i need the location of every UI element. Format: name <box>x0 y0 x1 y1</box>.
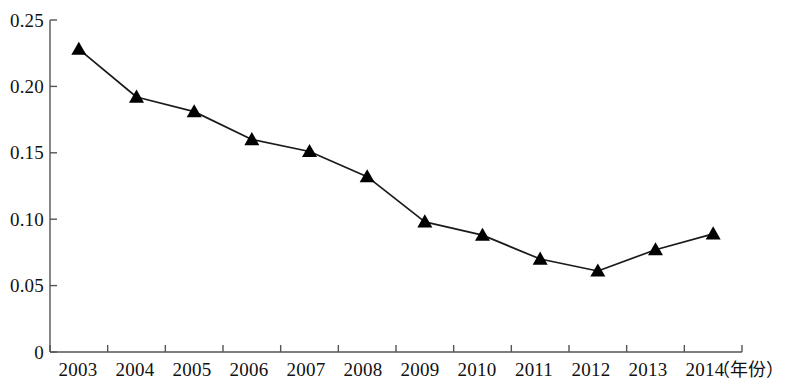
series-line <box>79 49 713 271</box>
line-chart: 0.25 0.20 0.15 0.10 0.05 0 2003 2004 200… <box>0 0 792 387</box>
series-markers <box>71 42 720 277</box>
plot-area <box>0 0 792 387</box>
y-axis-ticks <box>50 20 57 352</box>
data-point-marker <box>244 132 259 145</box>
x-axis-ticks <box>50 345 742 352</box>
data-point-marker <box>129 90 144 103</box>
data-point-marker <box>533 252 548 265</box>
axis-lines <box>50 20 742 352</box>
data-point-marker <box>360 169 375 182</box>
data-point-marker <box>706 226 721 239</box>
data-point-marker <box>71 42 86 55</box>
data-point-marker <box>417 214 432 227</box>
